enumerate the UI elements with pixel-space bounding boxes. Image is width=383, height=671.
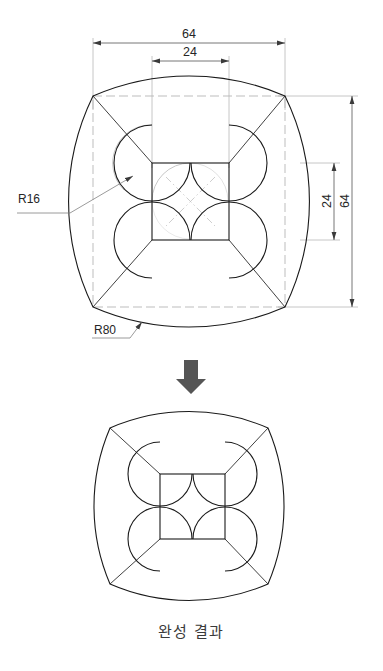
dimension-right-inner-label: 24 — [320, 194, 334, 208]
lower-corner-diagonals — [110, 428, 268, 584]
upper-figure: 64 24 64 24 — [17, 27, 358, 338]
down-arrow-icon — [176, 360, 206, 394]
radius-label-r16-text: R16 — [18, 192, 40, 206]
lower-figure — [94, 412, 284, 601]
dimension-top-overall: 64 — [93, 27, 285, 43]
figure-caption: 완성 결과 — [158, 623, 224, 641]
center-mark — [166, 177, 215, 226]
dimension-top-inner: 24 — [152, 45, 229, 61]
technical-drawing-canvas: 64 24 64 24 — [0, 0, 383, 671]
construction-square — [93, 96, 285, 307]
outer-rounded-square — [69, 76, 310, 327]
corner-diagonals — [93, 96, 285, 307]
dimension-right-overall-label: 64 — [338, 194, 352, 208]
dimension-top-inner-label: 24 — [183, 45, 197, 59]
radius-label-r16: R16 — [17, 176, 133, 213]
lower-inner-square — [160, 474, 225, 539]
dimension-right-inner: 24 — [320, 163, 334, 240]
radius-label-r80: R80 — [92, 322, 142, 338]
dimension-right-overall: 64 — [338, 96, 352, 307]
dimension-top-overall-label: 64 — [182, 27, 196, 41]
radius-label-r80-text: R80 — [94, 323, 116, 337]
